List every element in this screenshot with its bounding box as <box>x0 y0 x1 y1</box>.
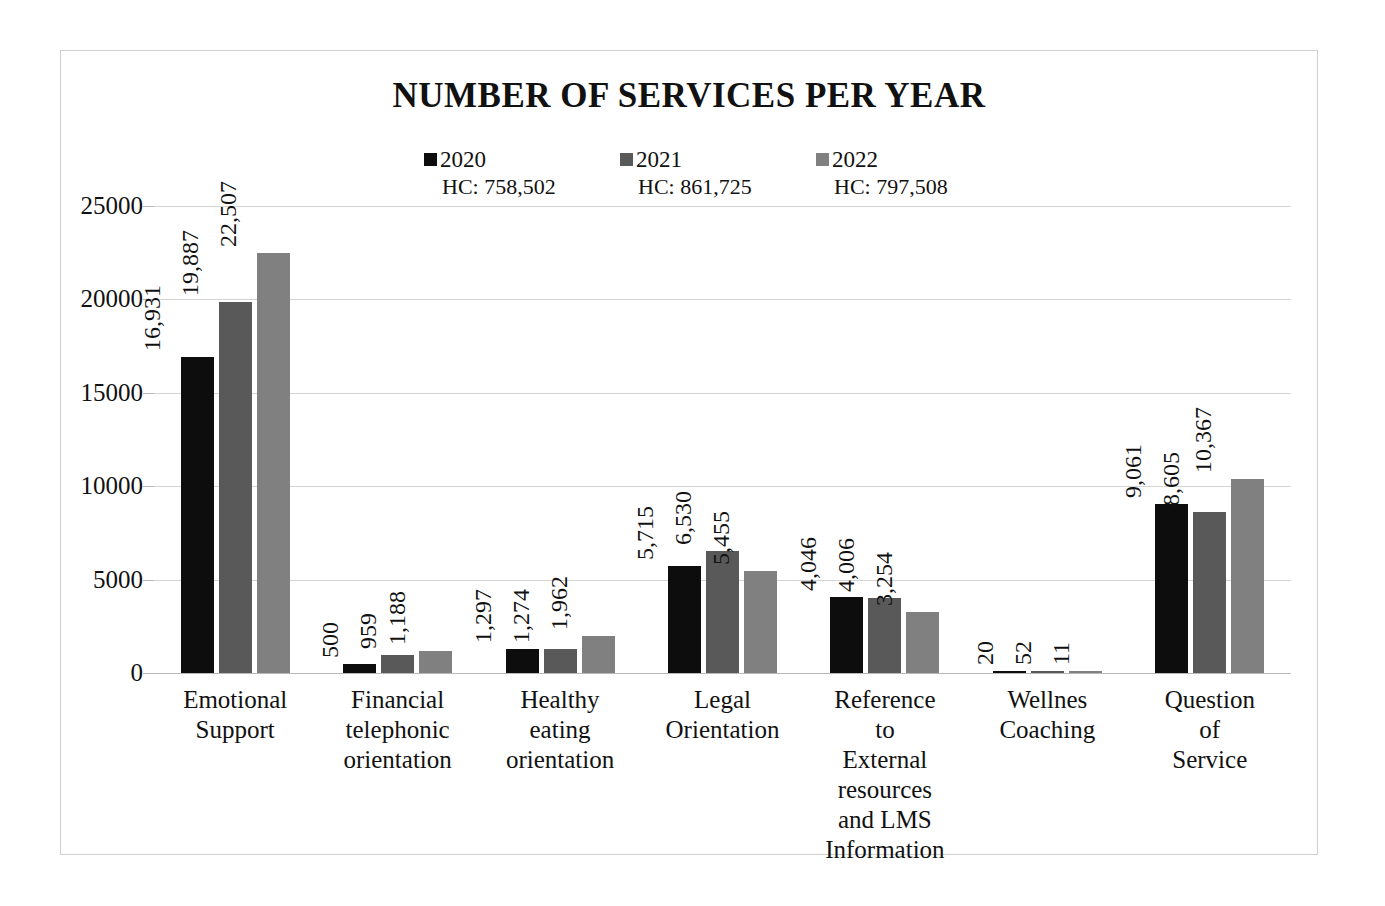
bar[interactable]: 8,605 <box>1193 512 1226 673</box>
bar-value-label: 1,962 <box>547 576 571 630</box>
bar-value-label: 16,931 <box>140 285 164 351</box>
bar-cluster: 5,7156,5305,455 <box>641 206 803 673</box>
x-axis-category-line: Support <box>183 715 287 745</box>
legend-swatch-icon <box>620 153 633 166</box>
y-axis-label: 25000 <box>13 193 143 218</box>
bar-value-label: 4,006 <box>834 538 858 592</box>
bar[interactable]: 22,507 <box>257 253 290 673</box>
bar-value-label: 500 <box>318 622 342 658</box>
legend-item-header: 2020 <box>424 146 556 172</box>
chart-legend: 2020HC: 758,5022021HC: 861,7252022HC: 79… <box>424 146 984 204</box>
y-axis-label: 5000 <box>13 567 143 592</box>
y-axis-label: 20000 <box>13 286 143 311</box>
bar-value-label: 8,605 <box>1159 452 1183 506</box>
chart-title: NUMBER OF SERVICES PER YEAR <box>61 76 1317 116</box>
x-axis-category-label: Financialtelephonicorientation <box>343 685 451 775</box>
x-axis-category-label: Healthy eatingorientation <box>506 685 614 775</box>
bar-value-label: 6,530 <box>671 491 695 545</box>
y-axis-label: 15000 <box>13 380 143 405</box>
bar[interactable]: 9,061 <box>1155 504 1188 673</box>
bar[interactable]: 3,254 <box>906 612 939 673</box>
y-axis-tick <box>143 393 154 394</box>
bar-group: 5009591,188Financialtelephonicorientatio… <box>316 206 478 673</box>
legend-headcount-label: HC: 861,725 <box>638 175 752 199</box>
x-axis-category-line: Coaching <box>999 715 1095 745</box>
legend-item-header: 2022 <box>816 146 948 172</box>
x-axis-category-line: Service <box>1165 745 1255 775</box>
bar-cluster: 205211 <box>966 206 1128 673</box>
legend-series-label: 2020 <box>440 148 486 171</box>
x-axis-category-line: Information <box>825 835 944 865</box>
bar-group: 205211WellnesCoaching <box>966 206 1128 673</box>
bar-group: 16,93119,88722,507EmotionalSupport <box>154 206 316 673</box>
x-axis-category-line: Healthy eating <box>506 685 614 745</box>
legend-item-2021[interactable]: 2021HC: 861,725 <box>620 146 752 199</box>
bar-group: 4,0464,0063,254Reference toExternalresou… <box>804 206 966 673</box>
x-axis-category-label: Question ofService <box>1165 685 1255 775</box>
x-axis-category-line: Legal <box>666 685 780 715</box>
bar[interactable]: 19,887 <box>219 302 252 673</box>
x-axis-category-line: and LMS <box>825 805 944 835</box>
bar[interactable]: 5,715 <box>668 566 701 673</box>
x-axis-category-line: orientation <box>343 745 451 775</box>
bar-value-label: 11 <box>1050 642 1074 665</box>
gridline <box>154 673 1291 674</box>
bar-cluster: 4,0464,0063,254 <box>804 206 966 673</box>
bar[interactable]: 52 <box>1031 671 1064 673</box>
x-axis-category-line: telephonic <box>343 715 451 745</box>
x-axis-category-line: Financial <box>343 685 451 715</box>
bar-cluster: 5009591,188 <box>316 206 478 673</box>
bar[interactable]: 1,274 <box>544 649 577 673</box>
bar[interactable]: 10,367 <box>1231 479 1264 673</box>
bar[interactable]: 6,530 <box>706 551 739 673</box>
x-axis-category-line: Emotional <box>183 685 287 715</box>
x-axis-category-label: WellnesCoaching <box>999 685 1095 745</box>
legend-swatch-icon <box>816 153 829 166</box>
bar[interactable]: 1,188 <box>419 651 452 673</box>
bar-value-label: 3,254 <box>872 552 896 606</box>
legend-headcount-label: HC: 758,502 <box>442 175 556 199</box>
legend-item-header: 2021 <box>620 146 752 172</box>
legend-item-2022[interactable]: 2022HC: 797,508 <box>816 146 948 199</box>
y-axis-tick <box>143 580 154 581</box>
chart-frame: NUMBER OF SERVICES PER YEAR 2020HC: 758,… <box>60 50 1318 855</box>
bar-value-label: 5,455 <box>709 511 733 565</box>
y-axis-tick <box>143 486 154 487</box>
y-axis-label: 0 <box>13 660 143 685</box>
y-axis-label: 10000 <box>13 473 143 498</box>
plot-area: 250002000015000100005000016,93119,88722,… <box>154 206 1291 673</box>
bar[interactable]: 959 <box>381 655 414 673</box>
bar-value-label: 1,297 <box>471 589 495 643</box>
bar-cluster: 9,0618,60510,367 <box>1129 206 1291 673</box>
bar-value-label: 5,715 <box>633 506 657 560</box>
bar-value-label: 20 <box>973 641 997 665</box>
legend-series-label: 2022 <box>832 148 878 171</box>
bar[interactable]: 11 <box>1069 671 1102 673</box>
bar[interactable]: 5,455 <box>744 571 777 673</box>
bar-value-label: 52 <box>1011 641 1035 665</box>
x-axis-category-label: LegalOrientation <box>666 685 780 745</box>
legend-item-2020[interactable]: 2020HC: 758,502 <box>424 146 556 199</box>
legend-headcount-label: HC: 797,508 <box>834 175 948 199</box>
bar[interactable]: 4,046 <box>830 597 863 673</box>
bar[interactable]: 500 <box>343 664 376 673</box>
bar[interactable]: 1,297 <box>506 649 539 673</box>
x-axis-category-line: External <box>825 745 944 775</box>
bar-group: 9,0618,60510,367Question ofService <box>1129 206 1291 673</box>
bar[interactable]: 4,006 <box>868 598 901 673</box>
bar-value-label: 1,274 <box>509 589 533 643</box>
y-axis-tick <box>143 673 154 674</box>
bar-value-label: 1,188 <box>385 591 409 645</box>
bar-value-label: 22,507 <box>216 181 240 247</box>
bar-value-label: 9,061 <box>1121 444 1145 498</box>
x-axis-category-line: orientation <box>506 745 614 775</box>
bar[interactable]: 1,962 <box>582 636 615 673</box>
legend-series-label: 2021 <box>636 148 682 171</box>
bar-cluster: 16,93119,88722,507 <box>154 206 316 673</box>
bar-value-label: 959 <box>356 613 380 649</box>
bar[interactable]: 20 <box>993 671 1026 673</box>
y-axis-tick <box>143 206 154 207</box>
x-axis-category-line: Question of <box>1165 685 1255 745</box>
bar[interactable]: 16,931 <box>181 357 214 673</box>
bar-cluster: 1,2971,2741,962 <box>479 206 641 673</box>
